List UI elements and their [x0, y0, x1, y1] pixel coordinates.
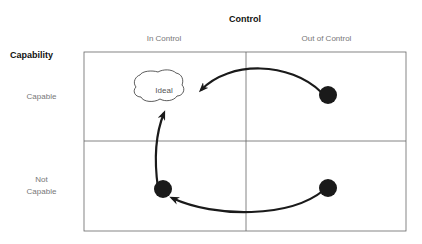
dot-capable-out-of-control	[319, 86, 337, 104]
arrow-left	[156, 113, 164, 188]
arrow-top	[201, 68, 321, 92]
ideal-label: Ideal	[155, 86, 173, 95]
arrow-bottom	[172, 190, 324, 212]
grid	[84, 52, 406, 231]
matrix-diagram: Ideal	[0, 0, 422, 244]
dot-not-capable-in-control	[154, 180, 172, 198]
dot-not-capable-out-of-control	[319, 179, 337, 197]
